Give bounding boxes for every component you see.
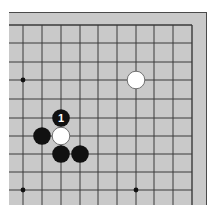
star-point-icon bbox=[21, 78, 26, 83]
white-stone[interactable] bbox=[52, 127, 70, 145]
star-point-icon bbox=[21, 188, 26, 193]
grid-lines bbox=[9, 25, 192, 205]
star-point-icon bbox=[134, 188, 139, 193]
move-number-label: 1 bbox=[58, 112, 64, 124]
black-stone[interactable] bbox=[71, 145, 89, 163]
white-stone[interactable] bbox=[127, 71, 145, 89]
go-board-grid[interactable]: 1 bbox=[0, 0, 217, 213]
black-stone[interactable] bbox=[52, 145, 70, 163]
stones: 1 bbox=[33, 71, 145, 163]
black-stone[interactable] bbox=[33, 127, 51, 145]
black-stone[interactable]: 1 bbox=[52, 109, 70, 127]
